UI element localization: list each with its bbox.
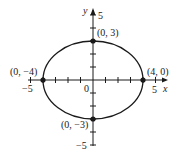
y-axis-label: y bbox=[82, 5, 88, 16]
y-min-label: −5 bbox=[76, 140, 87, 151]
x-max-label: 5 bbox=[152, 84, 157, 95]
origin-label: 0 bbox=[84, 83, 89, 94]
point-left bbox=[40, 77, 45, 82]
point-left-label: (0, −4) bbox=[10, 66, 37, 78]
x-axis-arrow-icon bbox=[162, 78, 168, 83]
x-min-label: −5 bbox=[22, 83, 33, 94]
point-bottom-label: (0, −3) bbox=[61, 119, 88, 131]
point-top-label: (0, 3) bbox=[97, 27, 119, 39]
point-right bbox=[140, 77, 145, 82]
y-axis-arrow-icon bbox=[91, 8, 96, 15]
point-top bbox=[90, 38, 95, 43]
x-axis-label: x bbox=[162, 83, 168, 94]
point-right-label: (4, 0) bbox=[147, 66, 169, 78]
ellipse-plot: y 5 (0, 3) (0, −4) (4, 0) −5 0 5 x (0, −… bbox=[0, 0, 180, 156]
point-bottom bbox=[90, 116, 95, 121]
y-max-label: 5 bbox=[98, 10, 103, 21]
